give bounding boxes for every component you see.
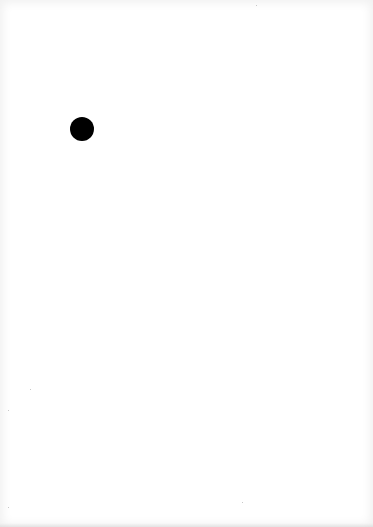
scan-speck: [242, 502, 243, 503]
blank-scanned-page: [0, 0, 373, 527]
scan-speck: [30, 389, 31, 390]
black-dot-mark: [70, 117, 94, 141]
scan-speck: [8, 410, 9, 411]
page-bottom-edge: [0, 523, 373, 527]
scan-speck: [256, 5, 257, 6]
scan-speck: [8, 507, 9, 508]
